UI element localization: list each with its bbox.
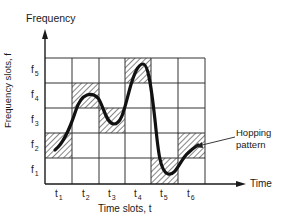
x-axis-arrow-icon (236, 181, 246, 187)
annotation-line-2: pattern (236, 140, 266, 150)
y-axis-title: Frequency (26, 13, 76, 24)
x-axis-title: Time (250, 179, 272, 189)
freq-label-f2: f2 (31, 140, 39, 150)
time-label-t4: t4 (134, 189, 142, 199)
time-label-t3: t3 (108, 189, 116, 199)
time-label-t2: t2 (82, 189, 90, 199)
y-axis-label: Frequency slots, f (2, 53, 13, 128)
hopping-diagram (0, 0, 286, 223)
annotation-line-1: Hopping (236, 128, 271, 138)
time-label-t1: t1 (55, 189, 63, 199)
y-axis-arrow-icon (42, 29, 48, 39)
time-label-t5: t5 (160, 189, 168, 199)
time-label-t6: t6 (187, 189, 195, 199)
freq-label-f3: f3 (31, 115, 39, 125)
freq-label-f1: f1 (31, 165, 39, 175)
x-axis-label: Time slots, t (98, 204, 152, 214)
freq-label-f4: f4 (31, 90, 39, 100)
freq-label-f5: f5 (31, 65, 39, 75)
